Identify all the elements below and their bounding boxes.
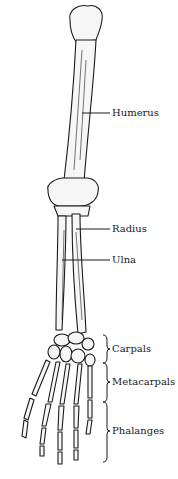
phalanx [42, 404, 51, 426]
humerus-shaft [64, 40, 96, 182]
label-carpals: Carpals [112, 343, 151, 355]
carpal-bone [54, 334, 70, 346]
elbow-joint [48, 178, 99, 206]
arm-skeleton-illustration [0, 0, 178, 479]
label-metacarpals: Metacarpals [112, 376, 175, 388]
label-radius: Radius [112, 223, 147, 235]
metacarpal [48, 362, 60, 402]
metacarpals-brace [103, 363, 110, 402]
phalanx-thumb [24, 398, 34, 420]
humerus-head [70, 6, 103, 42]
ulna [56, 216, 66, 330]
phalanges-brace [103, 402, 110, 462]
label-ulna: Ulna [112, 254, 136, 266]
carpals-brace [103, 335, 110, 363]
label-phalanges: Phalanges [112, 425, 164, 437]
label-humerus: Humerus [112, 107, 159, 119]
metacarpal-thumb [32, 360, 50, 396]
